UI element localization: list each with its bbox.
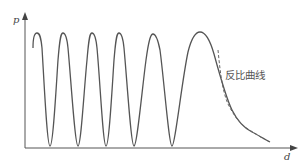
y-axis-label: p: [13, 15, 19, 25]
inverse-proportion-dashed-curve: [218, 50, 262, 138]
x-axis-label: d: [284, 152, 290, 162]
oscillation-curve: [33, 32, 270, 146]
x-axis-arrow-icon: [290, 145, 298, 151]
y-axis-arrow-icon: [22, 12, 28, 20]
inverse-curve-annotation: 反比曲线: [225, 70, 265, 81]
plot-canvas: [0, 0, 308, 168]
inverse-curve-diagram: p d 反比曲线: [0, 0, 308, 168]
